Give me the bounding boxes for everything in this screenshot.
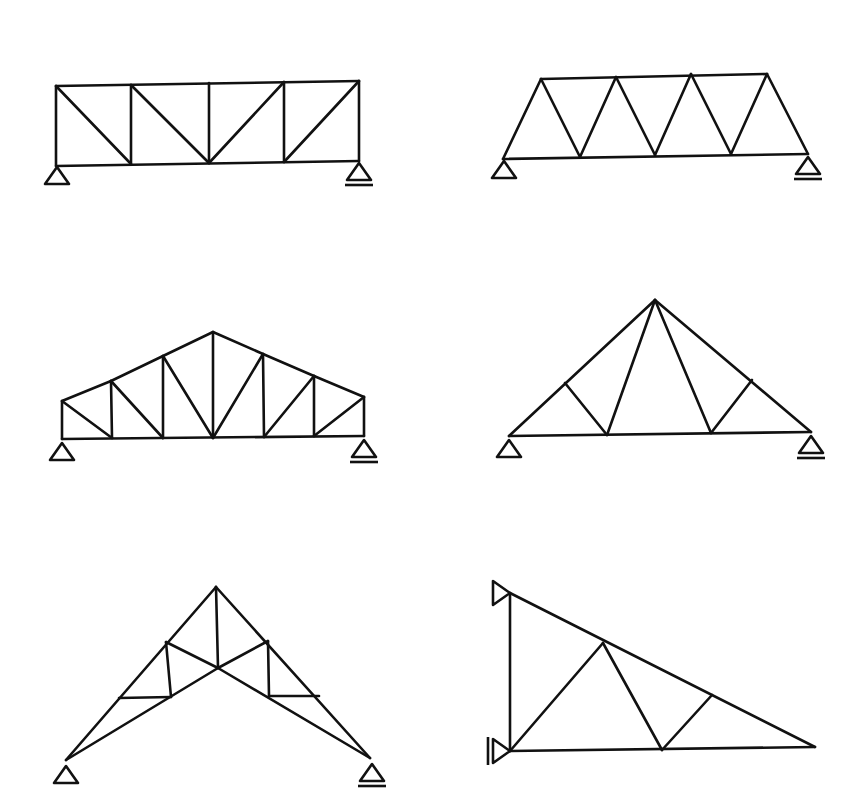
- truss-member: [503, 79, 541, 159]
- truss-member: [209, 82, 284, 163]
- truss-member: [662, 695, 712, 750]
- truss-member: [607, 300, 655, 435]
- truss-member: [163, 332, 213, 356]
- truss-member: [66, 587, 216, 760]
- truss-scissors: [54, 587, 386, 786]
- roller-support-icon: [796, 157, 820, 174]
- truss-member: [580, 77, 616, 157]
- truss-member: [62, 381, 111, 401]
- truss-member: [111, 381, 112, 438]
- truss-member: [111, 381, 163, 438]
- truss-member: [655, 74, 691, 155]
- truss-member: [119, 697, 171, 698]
- roller-support-icon: [352, 440, 376, 457]
- truss-member: [509, 432, 811, 436]
- truss-member: [655, 300, 711, 433]
- roller-support-icon: [799, 436, 823, 453]
- truss-member: [166, 642, 171, 697]
- roller-support-icon: [360, 764, 384, 781]
- truss-member: [510, 643, 603, 751]
- truss-member: [616, 77, 655, 155]
- pin-support-icon: [50, 443, 74, 460]
- truss-member: [264, 376, 314, 437]
- truss-member: [111, 356, 163, 381]
- roller-support-icon: [347, 163, 371, 180]
- truss-member: [565, 383, 607, 435]
- truss-pratt-flat: [45, 81, 373, 185]
- truss-howe-pitched: [50, 332, 378, 462]
- truss-member: [314, 397, 364, 436]
- truss-member: [62, 401, 112, 438]
- truss-diagram-canvas: [0, 0, 868, 807]
- truss-fink-triangular: [497, 300, 825, 458]
- truss-member: [655, 300, 811, 432]
- truss-member: [691, 74, 731, 154]
- truss-member: [213, 332, 263, 354]
- truss-member: [263, 354, 264, 437]
- truss-warren: [492, 74, 822, 179]
- truss-member: [314, 376, 364, 397]
- truss-member: [66, 668, 218, 760]
- truss-member: [541, 79, 580, 157]
- wall-roller-support-icon: [493, 739, 510, 763]
- truss-member: [216, 587, 218, 668]
- truss-member: [131, 85, 209, 163]
- truss-member: [510, 593, 815, 747]
- truss-member: [284, 81, 359, 162]
- truss-member: [56, 81, 359, 86]
- pin-support-icon: [54, 766, 78, 783]
- truss-member: [166, 642, 218, 668]
- truss-member: [731, 74, 767, 154]
- truss-member: [263, 354, 314, 376]
- truss-member: [216, 587, 370, 758]
- truss-member: [163, 356, 213, 438]
- truss-member: [268, 641, 269, 696]
- truss-member: [218, 668, 370, 758]
- wall-pin-support-icon: [493, 581, 510, 605]
- pin-support-icon: [492, 161, 516, 178]
- pin-support-icon: [497, 440, 521, 457]
- truss-member: [767, 74, 808, 154]
- truss-member: [541, 74, 767, 79]
- truss-member: [711, 380, 752, 433]
- truss-cantilever-wall: [488, 581, 815, 765]
- truss-member: [603, 643, 662, 750]
- truss-member: [218, 641, 268, 668]
- pin-support-icon: [45, 167, 69, 184]
- truss-member: [56, 86, 131, 164]
- truss-member: [213, 354, 263, 438]
- truss-member: [509, 300, 655, 436]
